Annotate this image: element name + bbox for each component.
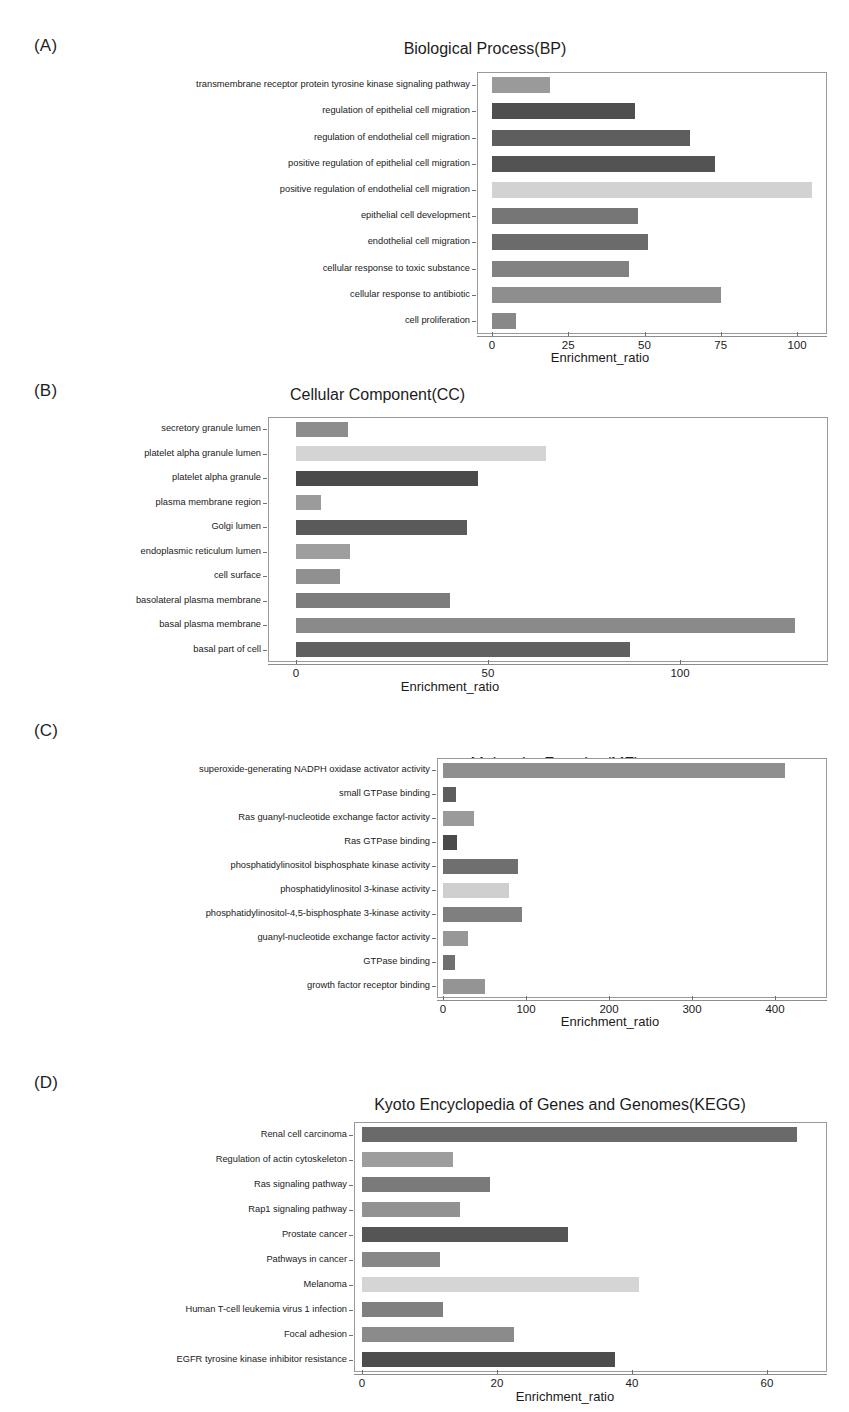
category-label: secretory granule lumen — [31, 424, 261, 433]
y-tick-mark — [263, 454, 267, 455]
panel-tag-a: (A) — [34, 36, 57, 56]
y-tick-mark — [349, 1210, 353, 1211]
x-tick-mark — [680, 660, 681, 664]
category-label: basolateral plasma membrane — [31, 596, 261, 605]
category-label: EGFR tyrosine kinase inhibitor resistanc… — [47, 1355, 347, 1364]
plot-area-d — [354, 1122, 827, 1372]
bar-row — [354, 1277, 827, 1292]
category-label: growth factor receptor binding — [35, 981, 430, 990]
y-tick-mark — [432, 938, 436, 939]
category-label: endoplasmic reticulum lumen — [31, 547, 261, 556]
category-label: Rap1 signaling pathway — [47, 1205, 347, 1214]
bar — [492, 77, 550, 93]
x-tick-mark — [296, 660, 297, 664]
bar-row — [477, 261, 827, 277]
x-axis-title: Enrichment_ratio — [516, 1389, 614, 1404]
category-label: Renal cell carcinoma — [47, 1130, 347, 1139]
category-label: regulation of epithelial cell migration — [65, 106, 470, 115]
x-tick-label: 0 — [440, 1003, 446, 1015]
y-tick-mark — [263, 625, 267, 626]
panel-title-a: Biological Process(BP) — [404, 40, 567, 58]
x-tick-mark — [775, 996, 776, 1000]
bar-row — [268, 422, 828, 437]
bar — [362, 1152, 453, 1167]
bar — [296, 520, 467, 535]
bar-row — [268, 544, 828, 559]
category-label: cell surface — [31, 571, 261, 580]
y-tick-mark — [432, 842, 436, 843]
bar-row — [354, 1177, 827, 1192]
x-axis-line — [354, 1374, 827, 1375]
bar-rows — [268, 417, 828, 662]
x-tick-label: 20 — [491, 1377, 504, 1389]
category-label: Ras GTPase binding — [35, 837, 430, 846]
category-label: basal part of cell — [31, 645, 261, 654]
x-tick-label: 100 — [516, 1003, 535, 1015]
category-label: regulation of endothelial cell migration — [65, 133, 470, 142]
x-axis-title: Enrichment_ratio — [401, 679, 499, 694]
x-tick-mark — [362, 1370, 363, 1374]
y-tick-mark — [432, 866, 436, 867]
bar-row — [268, 618, 828, 633]
bar-rows — [437, 758, 827, 998]
x-axis-line — [437, 1000, 827, 1001]
category-label: superoxide-generating NADPH oxidase acti… — [35, 765, 430, 774]
x-tick-label: 400 — [765, 1003, 784, 1015]
y-tick-mark — [432, 818, 436, 819]
bar — [443, 955, 455, 970]
x-tick-label: 100 — [787, 339, 806, 351]
category-label: positive regulation of endothelial cell … — [65, 185, 470, 194]
y-tick-mark — [432, 962, 436, 963]
y-tick-mark — [432, 770, 436, 771]
bar — [296, 618, 795, 633]
category-label: plasma membrane region — [31, 498, 261, 507]
bar-row — [268, 446, 828, 461]
bar — [492, 261, 629, 277]
bar — [362, 1177, 490, 1192]
bar-row — [477, 156, 827, 172]
bar — [443, 931, 468, 946]
y-tick-mark — [349, 1235, 353, 1236]
bar — [296, 495, 321, 510]
x-tick-label: 0 — [293, 667, 299, 679]
x-tick-mark — [609, 996, 610, 1000]
y-tick-mark — [472, 295, 476, 296]
bar-row — [437, 811, 827, 826]
x-tick-label: 60 — [761, 1377, 774, 1389]
bar — [443, 835, 457, 850]
y-tick-mark — [349, 1160, 353, 1161]
y-tick-mark — [472, 164, 476, 165]
plot-area-c — [437, 758, 827, 998]
bar — [362, 1352, 615, 1367]
x-tick-mark — [645, 332, 646, 336]
y-tick-mark — [432, 794, 436, 795]
panel-title-b: Cellular Component(CC) — [290, 386, 465, 404]
bar-rows — [477, 72, 827, 334]
y-tick-mark — [263, 552, 267, 553]
bar — [443, 883, 509, 898]
bar — [296, 569, 340, 584]
y-tick-mark — [432, 914, 436, 915]
y-tick-mark — [472, 242, 476, 243]
bar — [492, 234, 648, 250]
x-axis-line — [268, 664, 828, 665]
x-tick-label: 50 — [482, 667, 495, 679]
y-tick-mark — [349, 1285, 353, 1286]
category-label: phosphatidylinositol-4,5-bisphosphate 3-… — [35, 909, 430, 918]
panel-tag-d: (D) — [34, 1073, 58, 1093]
x-tick-mark — [767, 1370, 768, 1374]
bar-row — [437, 763, 827, 778]
x-tick-label: 300 — [682, 1003, 701, 1015]
bar-row — [437, 931, 827, 946]
bar-row — [437, 883, 827, 898]
bar — [296, 642, 630, 657]
bar-row — [354, 1227, 827, 1242]
x-tick-label: 0 — [359, 1377, 365, 1389]
x-tick-mark — [568, 332, 569, 336]
y-tick-mark — [263, 650, 267, 651]
plot-area-b — [268, 417, 828, 662]
bar — [362, 1127, 797, 1142]
x-tick-mark — [797, 332, 798, 336]
x-tick-label: 0 — [489, 339, 495, 351]
y-tick-mark — [472, 138, 476, 139]
